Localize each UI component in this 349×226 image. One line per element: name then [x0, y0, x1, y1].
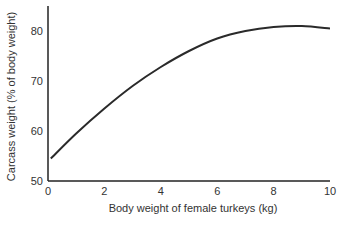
x-tick-label: 4 — [158, 185, 164, 197]
series-group — [51, 26, 330, 159]
y-tick-labels: 50607080 — [31, 25, 43, 187]
y-tick-label: 50 — [31, 175, 43, 187]
x-tick-label: 10 — [324, 185, 336, 197]
x-tick-labels: 0246810 — [45, 185, 336, 197]
y-axis-label: Carcass weight (% of body weight) — [5, 12, 17, 181]
axes — [48, 6, 330, 181]
x-axis-label: Body weight of female turkeys (kg) — [109, 202, 278, 214]
x-tick-label: 6 — [214, 185, 220, 197]
x-tick-label: 2 — [101, 185, 107, 197]
y-tick-label: 70 — [31, 75, 43, 87]
chart: 0246810 50607080 Body weight of female t… — [0, 0, 349, 226]
y-tick-label: 80 — [31, 25, 43, 37]
x-tick-label: 8 — [271, 185, 277, 197]
series-line — [51, 26, 330, 159]
x-tick-label: 0 — [45, 185, 51, 197]
y-tick-label: 60 — [31, 125, 43, 137]
